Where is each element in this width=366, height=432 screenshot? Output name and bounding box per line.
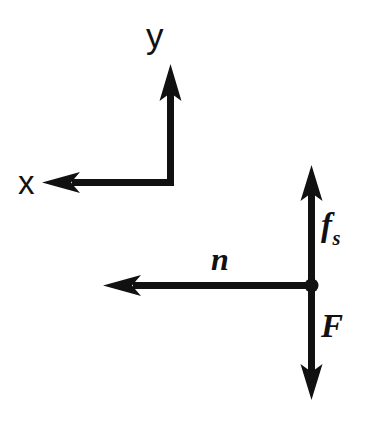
applied-force-label: F <box>321 310 343 343</box>
x-axis-arrow <box>42 172 174 193</box>
force-origin-dot <box>305 279 319 293</box>
static-friction-label-subscript: s <box>332 227 340 249</box>
x-axis-label: x <box>18 166 35 199</box>
applied-force-vector <box>301 283 323 400</box>
coordinate-axes <box>42 64 182 193</box>
static-friction-label-base: f <box>321 207 332 243</box>
normal-force-vector <box>103 275 314 296</box>
diagram-canvas: y x fs n F <box>0 0 366 432</box>
axes-corner-joint <box>167 179 174 186</box>
force-vector-group <box>103 165 323 400</box>
static-friction-label: fs <box>321 209 340 242</box>
static-friction-vector <box>301 165 323 287</box>
free-body-diagram-graphic <box>0 0 366 432</box>
normal-force-label: n <box>211 243 229 275</box>
y-axis-arrow <box>160 64 182 186</box>
y-axis-label: y <box>146 18 164 53</box>
